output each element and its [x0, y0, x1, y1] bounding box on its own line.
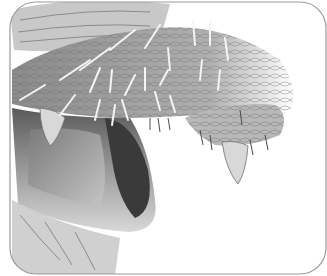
anatomical-illustration	[0, 0, 327, 276]
right-tooth	[222, 142, 248, 185]
illustration-frame	[0, 0, 327, 276]
